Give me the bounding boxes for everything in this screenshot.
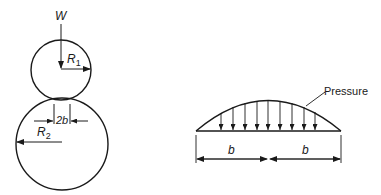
- large-cylinder: [16, 98, 108, 190]
- cylinders-in-contact: W R1 2b R2: [16, 9, 108, 190]
- contact-width-dimension: 2b: [34, 104, 88, 126]
- half-width-left-label: b: [228, 143, 235, 157]
- half-width-right-label: b: [302, 143, 309, 157]
- contact-stress-diagram: W R1 2b R2 Press: [0, 0, 381, 195]
- pressure-distribution: Pressure b b: [196, 85, 368, 163]
- small-radius-label: R1: [67, 52, 81, 68]
- contact-width-label: 2b: [55, 114, 68, 126]
- pressure-arrows: [221, 100, 315, 130]
- pressure-curve: [196, 101, 341, 132]
- half-width-dimensions: b b: [196, 135, 341, 163]
- load-label: W: [55, 9, 68, 23]
- pressure-label: Pressure: [324, 85, 368, 97]
- pressure-leader-line: [306, 92, 325, 106]
- large-radius-label: R2: [37, 125, 51, 141]
